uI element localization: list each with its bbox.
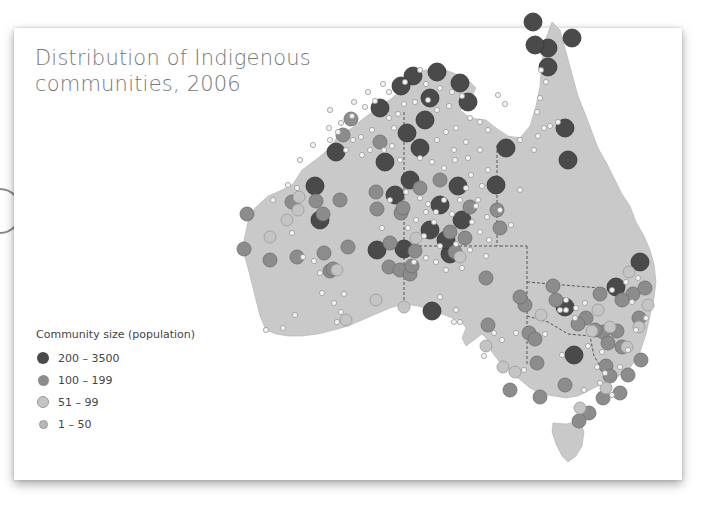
community-point-tiny — [467, 115, 472, 120]
community-point-tiny — [597, 380, 602, 385]
community-point-tiny — [433, 209, 438, 214]
community-point-large — [451, 74, 469, 92]
community-point-small — [480, 340, 492, 352]
community-point-tiny — [625, 347, 630, 352]
community-point-small — [454, 251, 466, 263]
community-point-large — [327, 143, 345, 161]
community-point-tiny — [582, 300, 587, 305]
community-point-large — [565, 346, 583, 364]
community-point-tiny — [434, 137, 439, 142]
community-point-tiny — [453, 307, 458, 312]
community-point-small — [281, 214, 293, 226]
community-point-tiny — [542, 331, 547, 336]
community-point-medium — [572, 414, 586, 428]
community-point-tiny — [300, 254, 305, 259]
community-point-tiny — [317, 270, 322, 275]
community-point-large — [497, 139, 515, 157]
community-point-tiny — [310, 142, 315, 147]
community-point-tiny — [437, 243, 442, 248]
community-point-tiny — [491, 330, 496, 335]
community-point-medium — [615, 293, 629, 307]
community-point-tiny — [294, 185, 299, 190]
community-point-tiny — [467, 247, 472, 252]
community-point-tiny — [423, 255, 428, 260]
community-point-tiny — [331, 300, 336, 305]
community-point-tiny — [499, 337, 504, 342]
community-point-tiny — [563, 297, 568, 302]
community-point-tiny — [391, 125, 396, 130]
community-point-tiny — [452, 157, 457, 162]
community-point-medium — [408, 244, 422, 258]
community-point-tiny — [453, 241, 458, 246]
community-point-tiny — [311, 258, 316, 263]
community-point-tiny — [421, 233, 426, 238]
community-point-tiny — [477, 147, 482, 152]
community-point-medium — [443, 225, 457, 239]
community-point-small — [592, 304, 604, 316]
community-point-medium — [493, 221, 507, 235]
community-point-large — [392, 77, 410, 95]
community-point-tiny — [572, 315, 577, 320]
community-point-large — [398, 124, 416, 142]
community-point-medium — [621, 368, 635, 382]
community-point-tiny — [449, 211, 454, 216]
community-point-tiny — [463, 185, 468, 190]
community-point-tiny — [389, 143, 394, 148]
community-point-tiny — [643, 315, 648, 320]
community-point-tiny — [367, 147, 372, 152]
community-point-tiny — [479, 183, 484, 188]
community-point-tiny — [412, 99, 417, 104]
community-point-tiny — [437, 85, 442, 90]
community-point-small — [574, 402, 586, 414]
community-point-tiny — [327, 137, 332, 142]
community-point-small — [293, 191, 305, 203]
community-point-tiny — [327, 107, 332, 112]
community-point-tiny — [465, 155, 470, 160]
community-point-medium — [458, 231, 472, 245]
community-point-medium — [503, 383, 517, 397]
community-point-tiny — [457, 319, 462, 324]
community-point-tiny — [338, 309, 343, 314]
community-point-tiny — [594, 364, 599, 369]
community-point-tiny — [443, 267, 448, 272]
community-point-large — [411, 139, 429, 157]
australia-map — [0, 0, 703, 510]
community-point-tiny — [623, 279, 628, 284]
community-point-tiny — [441, 197, 446, 202]
community-point-medium — [237, 242, 251, 256]
community-point-medium — [634, 353, 648, 367]
community-point-tiny — [559, 352, 564, 357]
community-point-medium — [601, 336, 615, 350]
mainland-shape — [244, 22, 656, 398]
community-point-tiny — [334, 319, 339, 324]
community-point-tiny — [468, 172, 473, 177]
community-point-small — [623, 266, 635, 278]
community-point-tiny — [423, 81, 428, 86]
community-point-tiny — [423, 209, 428, 214]
community-point-tiny — [417, 67, 422, 72]
community-point-small — [535, 309, 547, 321]
community-point-tiny — [446, 103, 451, 108]
community-point-tiny — [369, 127, 374, 132]
community-point-tiny — [602, 370, 607, 375]
community-point-tiny — [372, 98, 377, 103]
community-point-tiny — [463, 139, 468, 144]
community-point-medium — [481, 318, 495, 332]
community-point-tiny — [297, 157, 302, 162]
community-point-tiny — [538, 67, 543, 72]
community-point-tiny — [434, 107, 439, 112]
community-point-tiny — [573, 305, 578, 310]
community-point-small — [340, 314, 352, 326]
community-point-tiny — [629, 299, 634, 304]
community-point-tiny — [402, 79, 407, 84]
community-point-tiny — [609, 392, 614, 397]
community-point-tiny — [405, 225, 410, 230]
community-point-tiny — [326, 125, 331, 130]
community-point-tiny — [395, 111, 400, 116]
community-point-tiny — [362, 104, 367, 109]
community-point-tiny — [429, 159, 434, 164]
community-point-tiny — [585, 343, 590, 348]
community-point-tiny — [599, 349, 604, 354]
community-point-tiny — [386, 115, 391, 120]
community-point-medium — [370, 202, 384, 216]
